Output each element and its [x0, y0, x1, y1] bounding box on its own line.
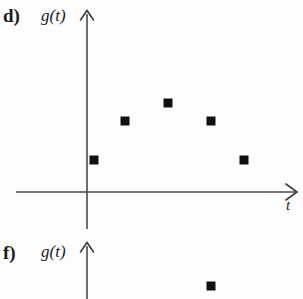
data-point-group-d — [90, 99, 249, 165]
data-point — [207, 282, 216, 291]
panel-f: f) g(t) — [0, 232, 303, 299]
data-point — [207, 117, 216, 126]
plot-area-d — [0, 0, 303, 232]
data-point-group-f — [207, 282, 216, 291]
panel-d: d) g(t) t — [0, 0, 303, 232]
data-point — [164, 99, 173, 108]
data-point — [121, 117, 130, 126]
plot-area-f — [0, 232, 303, 299]
data-point — [240, 156, 249, 165]
figure-root: d) g(t) t f) g(t) — [0, 0, 303, 299]
data-point — [90, 156, 99, 165]
